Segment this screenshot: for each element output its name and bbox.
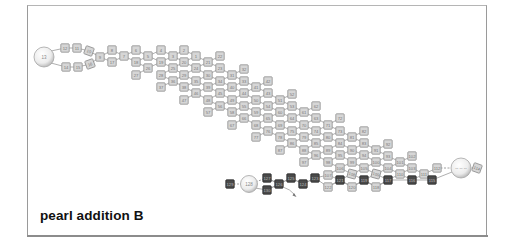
svg-text:25: 25 (171, 66, 176, 71)
svg-text:53: 53 (290, 104, 295, 109)
arrow-curve (283, 187, 295, 195)
diagram-caption: pearl addition B (40, 208, 144, 223)
bead-29: 29 (180, 71, 188, 79)
svg-text:68: 68 (254, 123, 259, 128)
svg-text:35: 35 (194, 79, 199, 84)
bead-71: 71 (324, 121, 332, 129)
svg-text:58: 58 (230, 110, 235, 115)
bead-32: 32 (240, 65, 248, 73)
svg-text:52: 52 (290, 92, 295, 97)
svg-text:87: 87 (278, 148, 283, 153)
svg-text:103: 103 (409, 166, 417, 171)
bead-35: 35 (192, 77, 200, 85)
bead-96: 96 (312, 151, 320, 159)
svg-text:101: 101 (397, 160, 405, 165)
svg-text:19: 19 (159, 60, 164, 65)
svg-text:17: 17 (110, 60, 115, 65)
svg-text:59: 59 (254, 110, 259, 115)
sphere-label: 13 (41, 55, 47, 60)
svg-text:70: 70 (302, 123, 307, 128)
bead-39: 39 (204, 83, 212, 91)
svg-text:82: 82 (362, 129, 367, 134)
svg-text:41: 41 (254, 85, 259, 90)
bead-125: 125 (287, 174, 295, 182)
svg-text:98: 98 (326, 160, 331, 165)
bead-98: 98 (324, 158, 332, 166)
svg-text:56: 56 (218, 104, 223, 109)
svg-text:78: 78 (278, 135, 283, 140)
bead-123: 123 (311, 174, 319, 182)
svg-text:121: 121 (337, 178, 345, 183)
bead-26: 26 (144, 64, 152, 72)
svg-text:106: 106 (337, 166, 345, 171)
svg-text:100: 100 (373, 160, 381, 165)
svg-text:80: 80 (326, 135, 331, 140)
bead-7: 7 (120, 52, 128, 60)
bead-16: 16 (85, 59, 96, 70)
sphere-right: -- -- -- (451, 158, 471, 178)
svg-text:20: 20 (182, 60, 187, 65)
bead-37: 37 (157, 83, 165, 91)
bead-9: 9 (96, 53, 104, 61)
svg-text:94: 94 (362, 153, 367, 158)
svg-text:96: 96 (314, 153, 319, 158)
bead-108: 108 (347, 169, 357, 179)
bead-70: 70 (300, 121, 308, 129)
svg-text:74: 74 (314, 129, 319, 134)
svg-text:21: 21 (206, 60, 211, 65)
svg-text:23: 23 (218, 66, 223, 71)
bead-68: 68 (252, 121, 260, 129)
bead-122: 122 (324, 183, 332, 191)
svg-text:104: 104 (385, 166, 393, 171)
bead-2: 2 (180, 46, 188, 54)
bead-86: 86 (288, 139, 296, 147)
svg-text:73: 73 (338, 129, 343, 134)
svg-text:24: 24 (194, 66, 199, 71)
svg-text:47: 47 (182, 98, 187, 103)
svg-text:30: 30 (206, 73, 211, 78)
bead-21: 21 (204, 58, 212, 66)
svg-text:88: 88 (302, 148, 307, 153)
svg-text:75: 75 (290, 129, 295, 134)
bead-45: 45 (216, 89, 224, 97)
bead-15: 15 (74, 63, 82, 71)
bead-101: 101 (396, 158, 404, 166)
bead-95: 95 (336, 151, 344, 159)
bead-19: 19 (157, 58, 165, 66)
bead-109: 109 (371, 169, 381, 179)
bead-85: 85 (312, 139, 320, 147)
sphere-bottom: 128 (241, 176, 258, 193)
bead-51: 51 (276, 96, 284, 104)
bead-57: 57 (204, 108, 212, 116)
svg-text:28: 28 (159, 73, 164, 78)
bead-48: 48 (204, 96, 212, 104)
svg-text:54: 54 (266, 104, 271, 109)
bead-72: 72 (336, 114, 344, 122)
svg-text:105: 105 (361, 166, 369, 171)
svg-text:126: 126 (276, 182, 284, 187)
bead-55: 55 (240, 102, 248, 110)
bead-47: 47 (180, 96, 188, 104)
bead-25: 25 (169, 64, 177, 72)
svg-text:44: 44 (242, 91, 247, 96)
bead-65: 65 (264, 114, 272, 122)
bead-10: 10 (84, 46, 95, 57)
svg-text:14: 14 (64, 65, 69, 70)
bead-5: 5 (144, 52, 152, 60)
svg-text:43: 43 (266, 91, 271, 96)
bead-17: 17 (108, 58, 116, 66)
bead-130: 130 (263, 186, 271, 194)
svg-text:110: 110 (397, 172, 404, 177)
bead-74: 74 (312, 127, 320, 135)
bead-64: 64 (288, 114, 296, 122)
svg-text:111: 111 (421, 172, 428, 177)
svg-text:12: 12 (63, 46, 68, 51)
svg-text:79: 79 (302, 135, 307, 140)
svg-text:117: 117 (385, 178, 392, 183)
svg-text:36: 36 (171, 79, 176, 84)
svg-text:89: 89 (326, 148, 331, 153)
svg-text:71: 71 (326, 123, 331, 128)
bead-34: 34 (216, 77, 224, 85)
bead-20: 20 (180, 58, 188, 66)
bead-31: 31 (228, 71, 236, 79)
